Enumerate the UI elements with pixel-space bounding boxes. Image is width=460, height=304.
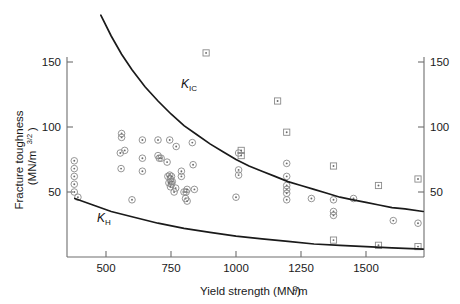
xtick-label-1250: 1250 bbox=[288, 262, 314, 274]
circle-dot-marker bbox=[166, 137, 173, 144]
circle-dot-marker bbox=[118, 130, 125, 137]
circle-dot-marker bbox=[71, 181, 78, 188]
tick-marks-group bbox=[67, 62, 424, 257]
y-axis-title-line2-main: (MN/m bbox=[26, 151, 38, 186]
square-dot-marker bbox=[415, 176, 421, 182]
circle-dot-marker bbox=[171, 189, 178, 196]
kh-curve bbox=[75, 199, 423, 250]
circle-dot-marker bbox=[118, 165, 125, 172]
circle-dot-marker bbox=[233, 194, 240, 201]
circle-dot-marker bbox=[283, 190, 290, 197]
xtick-label-1500: 1500 bbox=[353, 262, 379, 274]
figure-container: 150 100 50 150 100 50 500 750 1000 1250 … bbox=[0, 0, 460, 304]
square-dot-marker bbox=[330, 163, 336, 169]
circle-dot-marker bbox=[184, 198, 191, 205]
circle-dot-marker bbox=[330, 212, 337, 219]
right-ytick-label-150: 150 bbox=[430, 56, 449, 68]
kic-curve bbox=[101, 15, 423, 211]
circle-dot-marker bbox=[173, 143, 180, 150]
circle-dot-marker bbox=[330, 197, 337, 204]
circle-dot-marker bbox=[129, 197, 136, 204]
left-ytick-label-100: 100 bbox=[42, 121, 61, 133]
y-axis-title: Fracture toughness (MN/m 3/2 ) bbox=[13, 110, 38, 209]
square-dot-marker bbox=[275, 98, 281, 104]
circle-dot-marker bbox=[283, 173, 290, 180]
x-axis-title-tail: ) bbox=[297, 285, 301, 297]
circle-dot-marker bbox=[283, 182, 290, 189]
y-axis-title-line2-tail: ) bbox=[26, 127, 38, 131]
circle-dot-marker bbox=[118, 134, 125, 141]
kh-annotation: K H bbox=[97, 211, 111, 227]
x-axis-title-main: Yield strength (MN/m bbox=[200, 285, 308, 297]
xtick-label-1000: 1000 bbox=[223, 262, 249, 274]
circle-dot-marker bbox=[139, 155, 146, 162]
right-ytick-label-50: 50 bbox=[430, 186, 443, 198]
circle-dot-marker bbox=[71, 158, 78, 165]
circle-dot-marker bbox=[164, 159, 171, 166]
data-curves-layer bbox=[75, 15, 423, 249]
circle-dot-marker bbox=[155, 137, 162, 144]
circle-dot-marker bbox=[415, 220, 422, 227]
axis-frame bbox=[67, 57, 424, 257]
x-axis-title: Yield strength (MN/m 2 ) bbox=[200, 284, 308, 297]
circle-dot-marker bbox=[190, 161, 197, 168]
kic-annotation: K IC bbox=[181, 77, 197, 93]
circle-dot-marker bbox=[139, 137, 146, 144]
circle-dot-marker bbox=[283, 160, 290, 167]
circle-dot-marker bbox=[283, 197, 290, 204]
y-axis-title-line2-superscript: 3/2 bbox=[25, 134, 34, 144]
circle-dot-marker bbox=[390, 217, 397, 224]
circle-dot-marker bbox=[330, 208, 337, 215]
data-markers-layer bbox=[71, 50, 421, 250]
scatter-chart: 150 100 50 150 100 50 500 750 1000 1250 … bbox=[0, 0, 460, 304]
square-dot-marker bbox=[203, 50, 209, 56]
square-dot-marker bbox=[284, 129, 290, 135]
circle-dot-marker bbox=[139, 168, 146, 175]
right-ytick-label-100: 100 bbox=[430, 121, 449, 133]
circle-dot-marker bbox=[189, 139, 196, 146]
circle-dot-marker bbox=[283, 186, 290, 193]
left-ytick-label-150: 150 bbox=[42, 56, 61, 68]
circle-dot-marker bbox=[71, 173, 78, 180]
circle-dot-marker bbox=[71, 165, 78, 172]
kh-label-subscript: H bbox=[105, 218, 111, 227]
square-dot-marker bbox=[330, 237, 336, 243]
circle-dot-marker bbox=[308, 195, 315, 202]
xtick-label-750: 750 bbox=[161, 262, 180, 274]
kic-label-subscript: IC bbox=[189, 84, 197, 93]
y-axis-title-line1: Fracture toughness bbox=[13, 110, 25, 209]
left-ytick-label-50: 50 bbox=[48, 186, 61, 198]
circle-dot-marker bbox=[191, 186, 198, 193]
square-dot-marker bbox=[375, 182, 381, 188]
xtick-label-500: 500 bbox=[96, 262, 115, 274]
